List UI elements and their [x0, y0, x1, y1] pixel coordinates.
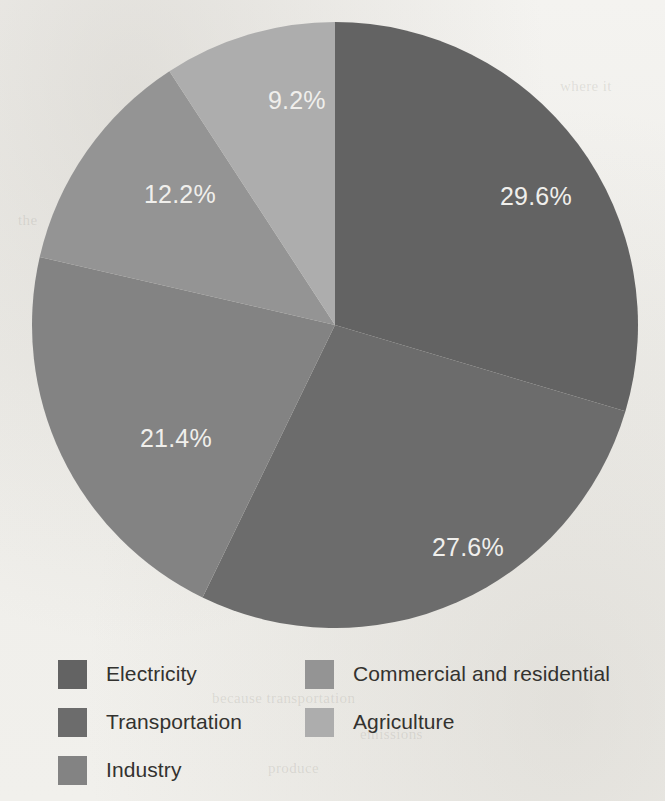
legend-column-right: Commercial and residentialAgriculture — [305, 650, 610, 746]
legend-item-label: Transportation — [106, 710, 242, 734]
legend-color-swatch — [58, 660, 87, 689]
bleed-through-text: produce — [268, 760, 319, 777]
legend-item[interactable]: Industry — [58, 746, 242, 794]
legend-item-label: Agriculture — [353, 710, 454, 734]
legend-item[interactable]: Electricity — [58, 650, 242, 698]
legend-item[interactable]: Agriculture — [305, 698, 610, 746]
legend-column-left: ElectricityTransportationIndustry — [58, 650, 242, 794]
legend-color-swatch — [58, 708, 87, 737]
pie-chart-svg: 29.6%27.6%21.4%12.2%9.2% — [32, 22, 638, 628]
legend-item-label: Commercial and residential — [353, 662, 610, 686]
legend-item[interactable]: Transportation — [58, 698, 242, 746]
legend-color-swatch — [305, 708, 334, 737]
pie-slice-value-label: 12.2% — [144, 180, 216, 208]
legend-item[interactable]: Commercial and residential — [305, 650, 610, 698]
pie-slice-value-label: 21.4% — [140, 424, 212, 452]
legend-color-swatch — [305, 660, 334, 689]
page-canvas: and emissionwhere ittheinsectorbecause t… — [0, 0, 665, 801]
pie-slice-value-label: 29.6% — [500, 182, 572, 210]
legend-color-swatch — [58, 756, 87, 785]
legend-item-label: Industry — [106, 758, 182, 782]
pie-chart: 29.6%27.6%21.4%12.2%9.2% — [32, 22, 638, 628]
pie-slice-value-label: 9.2% — [268, 86, 326, 114]
pie-slice-group — [32, 22, 638, 628]
legend-item-label: Electricity — [106, 662, 197, 686]
pie-slice-value-label: 27.6% — [432, 533, 504, 561]
